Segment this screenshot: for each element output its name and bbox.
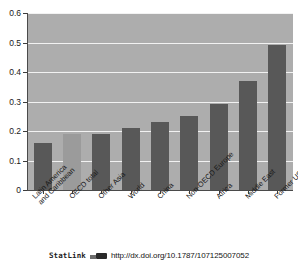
bar[interactable]: [239, 81, 257, 190]
y-axis-tick-label: 0.5: [9, 39, 21, 47]
statlink-url[interactable]: http://dx.doi.org/10.1787/107125007052: [111, 251, 249, 260]
x-axis-tick-mark: [72, 191, 73, 194]
y-axis: 0.60.50.40.30.20.10: [0, 0, 25, 200]
y-axis-tick-label: 0.1: [9, 157, 21, 165]
x-axis-tick-mark: [43, 191, 44, 194]
x-axis-tick-mark: [189, 191, 190, 194]
bar-chart-figure: 0.60.50.40.30.20.10 Latin Americaand Car…: [0, 0, 298, 265]
x-axis-tick-mark: [277, 191, 278, 194]
x-axis-tick-mark: [101, 191, 102, 194]
y-axis-tick-label: 0.2: [9, 127, 21, 135]
y-axis-tick-mark: [23, 131, 27, 132]
y-axis-tick-mark: [23, 13, 27, 14]
y-axis-tick-label: 0.4: [9, 68, 21, 76]
y-axis-tick-mark: [23, 72, 27, 73]
x-axis-tick-mark: [160, 191, 161, 194]
statlink-logo-icon: [90, 252, 107, 259]
x-axis-tick-mark: [219, 191, 220, 194]
statlink-label: StatLink: [49, 251, 86, 260]
y-axis-tick-label: 0.6: [9, 9, 21, 17]
y-axis-tick-mark: [23, 102, 27, 103]
bar[interactable]: [180, 116, 198, 190]
y-axis-tick-mark: [23, 161, 27, 162]
x-axis-tick-mark: [131, 191, 132, 194]
y-axis-tick-mark: [23, 43, 27, 44]
statlink-footer: StatLink http://dx.doi.org/10.1787/10712…: [0, 248, 298, 262]
bar[interactable]: [122, 128, 140, 190]
x-axis-category-labels: Latin Americaand CaribbeanOECD totalOthe…: [0, 193, 298, 243]
y-axis-tick-label: 0.3: [9, 98, 21, 106]
bar[interactable]: [151, 122, 169, 190]
x-axis-tick-mark: [248, 191, 249, 194]
